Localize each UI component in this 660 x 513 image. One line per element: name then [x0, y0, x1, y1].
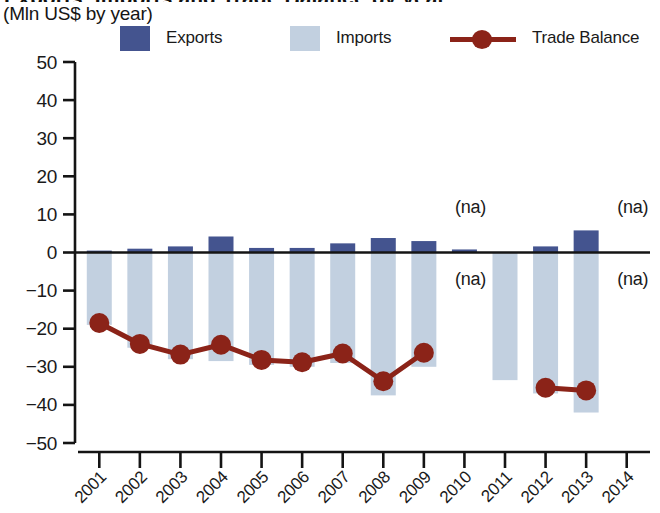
- x-axis-tick-label: 2011: [477, 467, 515, 505]
- y-axis-tick-label: 0: [47, 242, 57, 263]
- x-axis-tick-label: 2008: [355, 467, 394, 506]
- trade-balance-point[interactable]: [292, 352, 312, 372]
- y-axis-tick-label: 30: [36, 128, 57, 149]
- trade-balance-point[interactable]: [130, 334, 150, 354]
- bar-imports[interactable]: [493, 253, 518, 381]
- bar-exports[interactable]: [411, 241, 436, 252]
- y-axis-tick-label: −10: [26, 280, 57, 301]
- x-axis-tick-label: 2009: [395, 467, 434, 506]
- y-axis-tick-label: 10: [36, 204, 57, 225]
- x-axis-tick-label: 2005: [233, 467, 272, 506]
- bar-imports[interactable]: [127, 253, 152, 348]
- na-annotation-label: (na): [455, 197, 486, 217]
- bar-exports[interactable]: [330, 243, 355, 252]
- x-axis-tick-label: 2002: [111, 467, 150, 506]
- x-axis-tick-label: 2001: [71, 467, 110, 506]
- trade-balance-point[interactable]: [414, 343, 434, 363]
- y-axis-tick-label: 50: [36, 52, 57, 73]
- x-axis-tick-label: 2013: [558, 467, 597, 506]
- chart-plot-area: 50403020100−10−20−30−40−5020012002200320…: [0, 0, 660, 513]
- bar-imports[interactable]: [533, 253, 558, 394]
- y-axis-tick-label: −20: [26, 318, 57, 339]
- y-axis-tick-label: −30: [26, 356, 57, 377]
- na-annotation-label: (na): [617, 269, 648, 289]
- trade-balance-point[interactable]: [333, 343, 353, 363]
- x-axis-tick-label: 2012: [517, 467, 556, 506]
- trade-balance-point[interactable]: [536, 378, 556, 398]
- bar-imports[interactable]: [249, 253, 274, 365]
- x-axis-tick-label: 2004: [192, 467, 231, 506]
- trade-balance-point[interactable]: [170, 345, 190, 365]
- bar-exports[interactable]: [209, 236, 234, 252]
- y-axis-tick-label: −40: [26, 394, 57, 415]
- bar-exports[interactable]: [371, 238, 396, 252]
- x-axis-tick-label: 2014: [598, 467, 637, 506]
- trade-balance-point[interactable]: [576, 380, 596, 400]
- bar-exports[interactable]: [574, 230, 599, 252]
- trade-balance-point[interactable]: [252, 350, 272, 370]
- y-axis-tick-label: 40: [36, 90, 57, 111]
- x-axis-tick-label: 2006: [274, 467, 313, 506]
- y-axis-tick-label: 20: [36, 166, 57, 187]
- x-axis-tick-label: 2003: [152, 467, 191, 506]
- bar-imports[interactable]: [168, 253, 193, 360]
- na-annotation-label: (na): [617, 197, 648, 217]
- na-annotation-label: (na): [455, 269, 486, 289]
- x-axis-tick-label: 2010: [436, 467, 475, 506]
- x-axis-tick-label: 2007: [314, 467, 353, 506]
- bar-imports[interactable]: [290, 253, 315, 367]
- y-axis-tick-label: −50: [26, 433, 57, 454]
- trade-balance-point[interactable]: [89, 313, 109, 333]
- trade-balance-point[interactable]: [373, 371, 393, 391]
- chart-canvas: 50403020100−10−20−30−40−5020012002200320…: [0, 0, 660, 513]
- trade-balance-point[interactable]: [211, 335, 231, 355]
